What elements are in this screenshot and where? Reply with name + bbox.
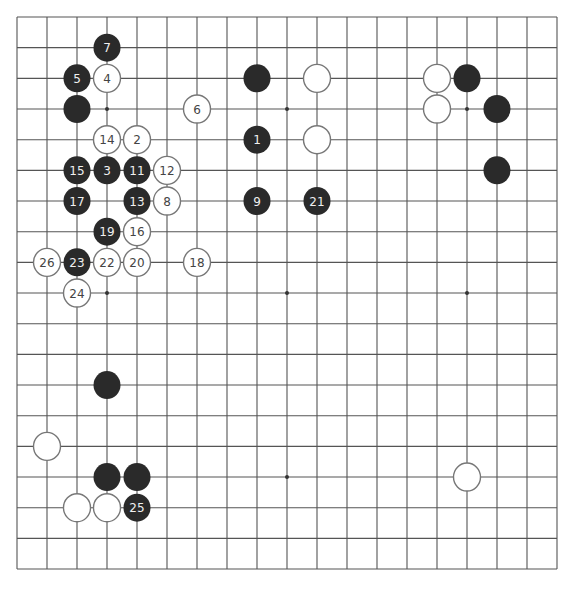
- white-stone[interactable]: 20: [124, 248, 151, 276]
- move-number-label: 25: [129, 501, 144, 515]
- black-stone[interactable]: [124, 463, 151, 491]
- star-point: [465, 291, 469, 295]
- white-stone-disc: [304, 126, 331, 154]
- white-stone[interactable]: 2: [124, 126, 151, 154]
- black-stone[interactable]: 5: [64, 64, 91, 92]
- move-number-label: 13: [129, 195, 144, 209]
- white-stone[interactable]: 14: [94, 126, 121, 154]
- black-stone[interactable]: [484, 95, 511, 123]
- move-number-label: 26: [39, 256, 54, 270]
- black-stone-disc: [94, 371, 121, 399]
- white-stone[interactable]: 18: [184, 248, 211, 276]
- black-stone[interactable]: [484, 156, 511, 184]
- move-number-label: 1: [253, 133, 261, 147]
- white-stone-disc: [34, 432, 61, 460]
- move-number-label: 20: [129, 256, 144, 270]
- black-stone[interactable]: [454, 64, 481, 92]
- star-point: [465, 107, 469, 111]
- white-stone[interactable]: [64, 494, 91, 522]
- move-number-label: 4: [103, 72, 111, 86]
- black-stone[interactable]: 13: [124, 187, 151, 215]
- move-number-label: 15: [69, 164, 84, 178]
- black-stone[interactable]: [94, 371, 121, 399]
- move-number-label: 8: [163, 195, 171, 209]
- move-number-label: 24: [69, 287, 84, 301]
- black-stone[interactable]: [244, 64, 271, 92]
- white-stone-disc: [424, 64, 451, 92]
- black-stone-disc: [484, 95, 511, 123]
- black-stone-disc: [124, 463, 151, 491]
- black-stone[interactable]: [94, 463, 121, 491]
- move-number-label: 12: [159, 164, 174, 178]
- white-stone[interactable]: [304, 64, 331, 92]
- go-board[interactable]: 7546142153111217138191626232220182419212…: [0, 0, 586, 598]
- white-stone[interactable]: 24: [64, 279, 91, 307]
- white-stone[interactable]: [424, 64, 451, 92]
- white-stone-disc: [454, 463, 481, 491]
- white-stone[interactable]: 22: [94, 248, 121, 276]
- move-number-label: 22: [99, 256, 114, 270]
- black-stone[interactable]: [64, 95, 91, 123]
- move-number-label: 21: [309, 195, 324, 209]
- star-point: [285, 107, 289, 111]
- move-number-label: 14: [99, 133, 114, 147]
- move-number-label: 9: [253, 195, 261, 209]
- star-point: [105, 291, 109, 295]
- black-stone-disc: [94, 463, 121, 491]
- white-stone[interactable]: 16: [124, 218, 151, 246]
- move-number-label: 7: [103, 41, 111, 55]
- move-number-label: 5: [73, 72, 81, 86]
- move-number-label: 18: [189, 256, 204, 270]
- move-number-label: 17: [69, 195, 84, 209]
- black-stone[interactable]: 1: [244, 126, 271, 154]
- white-stone[interactable]: [454, 463, 481, 491]
- black-stone[interactable]: 21: [304, 187, 331, 215]
- white-stone[interactable]: [424, 95, 451, 123]
- black-stone[interactable]: 3: [94, 156, 121, 184]
- move-number-label: 3: [103, 164, 111, 178]
- white-stone-disc: [424, 95, 451, 123]
- move-number-label: 6: [193, 103, 201, 117]
- white-stone[interactable]: [34, 432, 61, 460]
- black-stone[interactable]: 19: [94, 218, 121, 246]
- move-number-label: 23: [69, 256, 84, 270]
- white-stone[interactable]: [94, 494, 121, 522]
- black-stone-disc: [484, 156, 511, 184]
- white-stone[interactable]: 8: [154, 187, 181, 215]
- black-stone[interactable]: 17: [64, 187, 91, 215]
- black-stone[interactable]: 23: [64, 248, 91, 276]
- white-stone-disc: [94, 494, 121, 522]
- move-number-label: 16: [129, 225, 144, 239]
- black-stone-disc: [454, 64, 481, 92]
- move-number-label: 2: [133, 133, 141, 147]
- black-stone[interactable]: 9: [244, 187, 271, 215]
- black-stone-disc: [64, 95, 91, 123]
- move-number-label: 19: [99, 225, 114, 239]
- star-point: [285, 291, 289, 295]
- white-stone[interactable]: 4: [94, 64, 121, 92]
- move-number-label: 11: [129, 164, 144, 178]
- star-point: [105, 107, 109, 111]
- black-stone[interactable]: 25: [124, 494, 151, 522]
- white-stone[interactable]: [304, 126, 331, 154]
- black-stone[interactable]: 11: [124, 156, 151, 184]
- white-stone-disc: [64, 494, 91, 522]
- black-stone[interactable]: 7: [94, 34, 121, 62]
- black-stone[interactable]: 15: [64, 156, 91, 184]
- white-stone[interactable]: 6: [184, 95, 211, 123]
- star-point: [285, 475, 289, 479]
- black-stone-disc: [244, 64, 271, 92]
- white-stone-disc: [304, 64, 331, 92]
- white-stone[interactable]: 12: [154, 156, 181, 184]
- white-stone[interactable]: 26: [34, 248, 61, 276]
